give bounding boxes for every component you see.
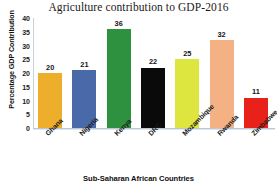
bar-value-label: 20 (46, 64, 54, 71)
bar-value-label: 22 (149, 58, 157, 65)
bar-chart: Agriculture contribution to GDP-2016 Per… (0, 0, 277, 189)
bar-group[interactable]: 36 (107, 18, 131, 128)
bar-value-label: 21 (80, 61, 88, 68)
bar-value-label: 25 (183, 50, 191, 57)
bar-value-label: 11 (252, 88, 260, 95)
x-axis-title: Sub-Saharan African Countries (0, 174, 277, 183)
bar-group[interactable]: 22 (141, 18, 165, 128)
bar-group[interactable]: 20 (38, 18, 62, 128)
y-tick-label: 25 (22, 56, 30, 63)
bar-value-label: 32 (217, 31, 225, 38)
bar[interactable] (210, 40, 234, 128)
y-tick-label: 30 (22, 42, 30, 49)
y-axis-title: Percentage GDP Contribution (7, 5, 16, 115)
y-tick-label: 10 (22, 97, 30, 104)
y-tick-label: 40 (22, 15, 30, 22)
bar-group[interactable]: 11 (244, 18, 268, 128)
bar[interactable] (107, 29, 131, 128)
bar-group[interactable]: 21 (72, 18, 96, 128)
y-tick-label: 20 (22, 70, 30, 77)
y-tick-label: 15 (22, 83, 30, 90)
y-tick-label: 0 (26, 125, 30, 132)
y-tick-label: 5 (26, 111, 30, 118)
chart-title: Agriculture contribution to GDP-2016 (0, 1, 277, 13)
bar[interactable] (141, 68, 165, 129)
plot-area: 20213622253211 (33, 18, 273, 128)
bar-value-label: 36 (115, 20, 123, 27)
bar-group[interactable]: 25 (175, 18, 199, 128)
bar-group[interactable]: 32 (210, 18, 234, 128)
y-tick-label: 35 (22, 28, 30, 35)
